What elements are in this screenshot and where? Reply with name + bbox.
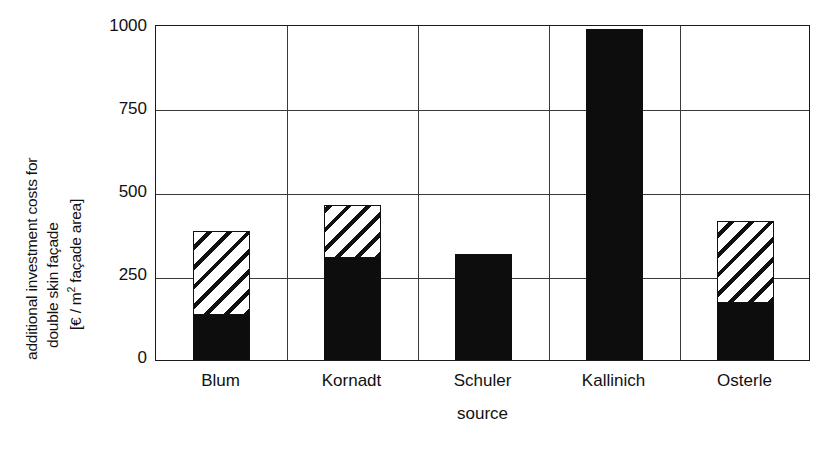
bar-segment-solid [717,303,774,360]
y-axis-title: additional investment costs for double s… [0,0,100,380]
y-tick-750: 750 [95,100,147,117]
bar-segment-solid [193,315,250,360]
y-axis-title-line-2: double skin façade [45,222,61,348]
category-divider [680,26,681,360]
y-tick-1000: 1000 [95,17,147,34]
bar-osterle [717,221,774,360]
bar-kallinich [586,29,643,360]
x-tick-kallinich: Kallinich [548,372,679,389]
category-divider [418,26,419,360]
bar-segment-hatched [324,205,381,257]
bar-kornadt [324,205,381,360]
x-tick-blum: Blum [155,372,286,389]
category-divider [549,26,550,360]
bar-segment-hatched [717,221,774,303]
x-tick-schuler: Schuler [417,372,548,389]
x-axis-title-text: source [457,404,508,424]
gridline-750 [156,110,809,111]
bar-schuler [455,254,512,360]
x-tick-kornadt: Kornadt [286,372,417,389]
y-axis-title-line-1: additional investment costs for [24,158,40,360]
y-axis-tick-labels: 1000 750 500 250 0 [95,0,147,380]
gridline-500 [156,194,809,195]
y-axis-unit-superscript: 2 [65,287,77,293]
x-axis-title: source [155,404,810,424]
category-divider [287,26,288,360]
bar-segment-solid [455,254,512,360]
plot-area [155,25,810,361]
bar-blum [193,231,250,360]
x-axis-tick-labels: BlumKornadtSchulerKallinichOsterle [155,372,810,398]
y-tick-500: 500 [95,183,147,200]
x-tick-osterle: Osterle [679,372,810,389]
bar-chart: additional investment costs for double s… [0,0,819,449]
y-axis-title-line-3: [€ / m2 façade area] [66,199,84,330]
y-tick-0: 0 [95,349,147,366]
bar-segment-solid [324,258,381,360]
y-tick-250: 250 [95,266,147,283]
bar-segment-hatched [193,231,250,315]
bar-segment-solid [586,29,643,360]
